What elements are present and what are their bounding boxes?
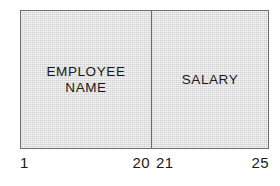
column-label-salary-start: 21	[156, 152, 174, 174]
field-label-employee-name: EMPLOYEE NAME	[46, 64, 125, 96]
record-layout-diagram: EMPLOYEE NAME SALARY 1 20 21 25	[0, 0, 280, 186]
record-box: EMPLOYEE NAME SALARY	[20, 10, 269, 149]
column-label-employee-end: 20	[133, 152, 151, 174]
column-position-ruler: 1 20 21 25	[20, 152, 269, 178]
field-cell-employee-name: EMPLOYEE NAME	[21, 11, 151, 148]
field-label-salary: SALARY	[182, 72, 239, 88]
column-label-salary-end: 25	[252, 152, 270, 174]
field-cell-salary: SALARY	[151, 11, 268, 148]
column-label-employee-start: 1	[20, 152, 29, 174]
